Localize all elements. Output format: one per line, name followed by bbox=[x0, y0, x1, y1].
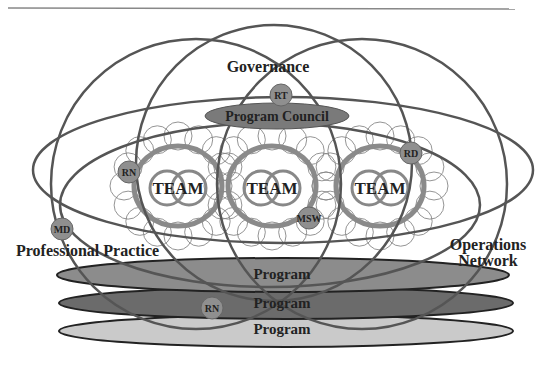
member-circle bbox=[296, 137, 324, 165]
program-council-label: Program Council bbox=[225, 109, 329, 124]
badge-label: RD bbox=[404, 148, 418, 159]
role-badge: MSW bbox=[297, 207, 322, 229]
badge-label: RN bbox=[122, 167, 137, 178]
team-clusters: TEAMTEAMTEAM bbox=[110, 122, 448, 250]
program-label-3: Program bbox=[253, 321, 311, 337]
team-label: TEAM bbox=[247, 179, 298, 198]
governance-label: Governance bbox=[227, 58, 310, 75]
role-badge: RT bbox=[270, 84, 292, 106]
role-badge: MD bbox=[51, 218, 73, 240]
badge-label: RN bbox=[205, 303, 220, 314]
member-circle bbox=[328, 137, 356, 165]
badge-label: MD bbox=[54, 224, 71, 235]
role-badge: RN bbox=[118, 161, 140, 183]
team-label: TEAM bbox=[355, 179, 406, 198]
care-model-diagram: TEAMTEAMTEAM RTRNRDMSWMDRN Governance Pr… bbox=[0, 0, 544, 374]
badge-label: RT bbox=[274, 90, 288, 101]
member-circle bbox=[202, 137, 230, 165]
role-badge: RD bbox=[400, 142, 422, 164]
program-label-1: Program bbox=[253, 266, 311, 282]
role-badge: RN bbox=[201, 297, 223, 319]
team-label: TEAM bbox=[153, 179, 204, 198]
network-label: Network bbox=[458, 252, 518, 269]
program-label-2: Program bbox=[253, 295, 311, 311]
top-rule bbox=[8, 8, 515, 9]
badge-label: MSW bbox=[297, 213, 322, 224]
professional-practice-label: Professional Practice bbox=[16, 242, 159, 259]
